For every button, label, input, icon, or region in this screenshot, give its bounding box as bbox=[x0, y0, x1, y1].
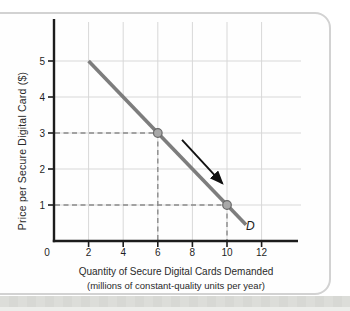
x-tick-label: 6 bbox=[155, 247, 161, 258]
x-tick-label: 12 bbox=[256, 247, 268, 258]
demand-line bbox=[89, 61, 246, 225]
x-axis-title-line2: (millions of constant-quality units per … bbox=[40, 279, 312, 293]
demand-curve-label: D bbox=[246, 219, 255, 233]
y-tick-label: 3 bbox=[39, 128, 45, 139]
x-tick-label: 0 bbox=[44, 247, 50, 258]
x-tick-label: 10 bbox=[221, 247, 233, 258]
figure-stage: 02468101212345 Price per Secure Digital … bbox=[0, 0, 350, 311]
x-tick-label: 8 bbox=[190, 247, 196, 258]
point-marker bbox=[154, 129, 163, 138]
x-tick-label: 2 bbox=[86, 247, 92, 258]
point-marker bbox=[223, 201, 232, 210]
x-axis-title: Quantity of Secure Digital Cards Demande… bbox=[40, 265, 312, 293]
y-tick-label: 5 bbox=[39, 56, 45, 67]
y-axis-title: Price per Secure Digital Card ($) bbox=[16, 72, 28, 230]
y-tick-label: 4 bbox=[39, 92, 45, 103]
x-axis-title-line1: Quantity of Secure Digital Cards Demande… bbox=[40, 265, 312, 279]
y-tick-label: 1 bbox=[39, 200, 45, 211]
x-tick-label: 4 bbox=[120, 247, 126, 258]
y-tick-label: 2 bbox=[39, 164, 45, 175]
